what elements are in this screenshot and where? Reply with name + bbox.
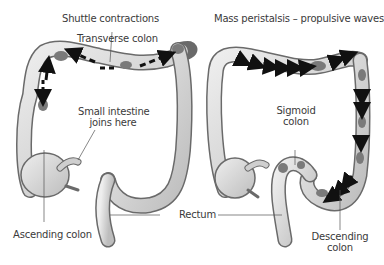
shuttle-contractions-title: Shuttle contractions (62, 13, 159, 24)
rectum-label: Rectum (177, 209, 218, 220)
ascending-colon-label: Ascending colon (13, 229, 92, 240)
left-colon (21, 44, 189, 240)
right-colon (214, 54, 366, 240)
mass-peristalsis-title: Mass peristalsis – propulsive waves (214, 13, 384, 24)
transverse-colon-label: Transverse colon (77, 33, 158, 44)
sigmoid-colon-label: Sigmoid colon (276, 105, 316, 127)
descending-colon-label: Descending colon (311, 231, 369, 253)
small-intestine-label: Small intestine joins here (78, 106, 148, 128)
